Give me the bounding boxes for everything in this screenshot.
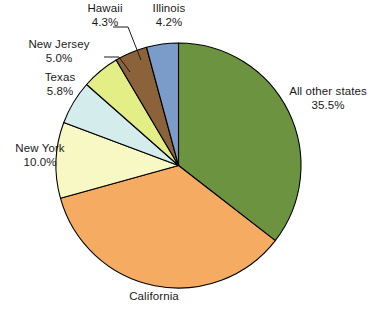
pie-label-texas: Texas 5.8% xyxy=(24,71,96,98)
pie-label-california-name: California xyxy=(110,290,198,304)
pie-label-texas-percent: 5.8% xyxy=(24,85,96,99)
pie-label-illinois: Illinois 4.2% xyxy=(139,2,199,29)
pie-label-hawaii-percent: 4.3% xyxy=(74,16,136,30)
pie-chart: Hawaii 4.3% Illinois 4.2% New Jersey 5.0… xyxy=(0,0,369,309)
pie-label-hawaii: Hawaii 4.3% xyxy=(74,2,136,29)
pie-label-all-other-states: All other states 35.5% xyxy=(287,85,369,112)
pie-label-illinois-name: Illinois xyxy=(139,2,199,16)
pie-label-new-jersey: New Jersey 5.0% xyxy=(16,38,102,65)
pie-label-california: California xyxy=(110,290,198,304)
pie-label-hawaii-name: Hawaii xyxy=(74,2,136,16)
pie-label-all-other-states-name: All other states xyxy=(287,85,369,99)
pie-label-new-jersey-percent: 5.0% xyxy=(16,52,102,66)
pie-label-new-york-percent: 10.0% xyxy=(2,156,78,170)
pie-label-new-jersey-name: New Jersey xyxy=(16,38,102,52)
pie-label-new-york-name: New York xyxy=(2,142,78,156)
pie-label-new-york: New York 10.0% xyxy=(2,142,78,169)
pie-label-illinois-percent: 4.2% xyxy=(139,16,199,30)
pie-label-all-other-states-percent: 35.5% xyxy=(287,99,369,113)
pie-label-texas-name: Texas xyxy=(24,71,96,85)
